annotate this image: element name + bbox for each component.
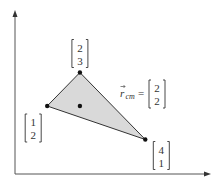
vertex-point-v2 [78,70,82,74]
triangle [47,73,145,140]
right-bracket [163,80,165,108]
left-bracket [25,114,27,142]
cm-subscript: cm [126,92,136,101]
right-bracket [39,114,41,142]
diagram-canvas: 122341rcm=22 [0,0,217,186]
vector-bottom-component: 3 [77,55,83,67]
y-axis-arrowhead [13,10,18,17]
vector-top-component: 1 [30,116,36,128]
vector-top-component: 2 [154,82,160,94]
right-bracket [167,142,169,170]
r-symbol: r [120,87,125,99]
right-bracket [86,40,88,68]
center-of-mass-vector: 22 [149,80,165,108]
center-of-mass-label: rcm= [120,85,144,101]
left-bracket [153,142,155,170]
x-axis-arrowhead [204,172,211,177]
left-bracket [72,40,74,68]
coordinate-plane: 122341rcm=22 [0,0,217,186]
vertex-label-v1: 12 [25,114,41,142]
vertex-label-v3: 41 [153,142,169,170]
vector-bottom-component: 1 [159,157,165,169]
vector-top-component: 2 [77,42,83,54]
vertex-label-v2: 23 [72,40,88,68]
vector-top-component: 4 [159,144,165,156]
vector-bottom-component: 2 [154,95,160,107]
vertex-point-v3 [143,137,147,141]
left-bracket [149,80,151,108]
center-of-mass-point [78,104,82,108]
vertex-point-v1 [45,104,49,108]
equals-sign: = [138,87,144,99]
vector-bottom-component: 2 [30,129,36,141]
